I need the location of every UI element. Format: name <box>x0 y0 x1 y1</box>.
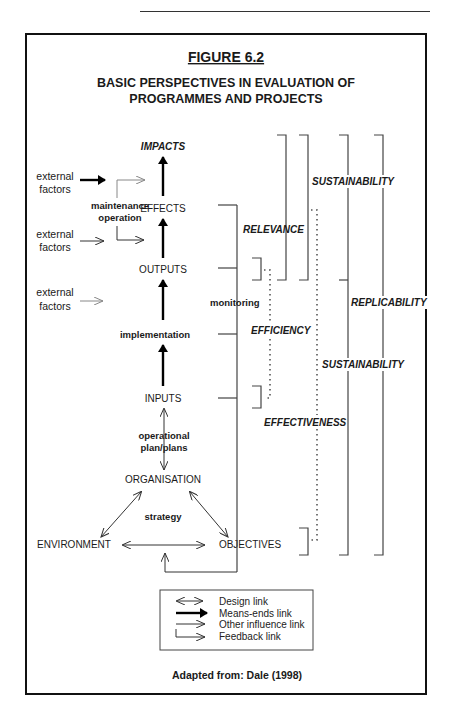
external-factors-1-line1: external <box>36 170 73 182</box>
node-impacts: IMPACTS <box>141 141 186 152</box>
bracket-outputs <box>252 258 261 280</box>
figure-label: FIGURE 6.2 <box>188 49 264 65</box>
node-objectives: OBJECTIVES <box>219 539 282 550</box>
maintenance-line1: maintenance <box>91 200 149 211</box>
feedback-link <box>165 553 237 572</box>
evaluation-perspectives-diagram: FIGURE 6.2 BASIC PERSPECTIVES IN EVALUAT… <box>0 0 454 724</box>
node-outputs: OUTPUTS <box>139 264 187 275</box>
node-organisation: ORGANISATION <box>125 474 201 485</box>
figure-title-line1: BASIC PERSPECTIVES IN EVALUATION OF <box>97 76 355 90</box>
maintenance-line2: operation <box>98 212 141 223</box>
external-factors-3-line2: factors <box>39 300 71 312</box>
legend-design-link: Design link <box>219 596 269 607</box>
design-link-organisation-objectives <box>190 492 228 537</box>
external-factors-2-line2: factors <box>39 241 71 253</box>
maintenance-arrow-to-impacts <box>117 180 145 198</box>
label-sustainability-mid: SUSTAINABILITY <box>322 359 405 370</box>
label-effectiveness: EFFECTIVENESS <box>264 417 347 428</box>
bracket-sustainability-mid <box>339 135 348 555</box>
legend-other-influence-link: Other influence link <box>219 619 306 630</box>
node-environment: ENVIRONMENT <box>37 539 111 550</box>
figure-source: Adapted from: Dale (1998) <box>172 669 302 681</box>
legend-means-ends-link: Means-ends link <box>219 608 293 619</box>
bracket-relevance <box>277 135 286 280</box>
effectiveness-dotted-link <box>311 210 317 540</box>
figure-title-line2: PROGRAMMES AND PROJECTS <box>129 92 322 106</box>
bracket-objectives <box>299 528 308 555</box>
maintenance-arrow-to-effects <box>117 226 144 240</box>
node-implementation: implementation <box>120 329 190 340</box>
bracket-replicability <box>374 135 383 555</box>
monitoring-label: monitoring <box>210 297 260 308</box>
legend-feedback-link: Feedback link <box>219 631 282 642</box>
external-factors-3-line1: external <box>36 286 73 298</box>
bracket-inputs <box>252 386 261 408</box>
design-link-organisation-environment <box>101 492 141 537</box>
node-inputs: INPUTS <box>145 393 182 404</box>
label-efficiency: EFFICIENCY <box>251 325 312 336</box>
node-strategy: strategy <box>145 511 183 522</box>
external-factors-1-line2: factors <box>39 183 71 195</box>
label-relevance: RELEVANCE <box>243 224 304 235</box>
external-factors-2-line1: external <box>36 228 73 240</box>
label-sustainability-top: SUSTAINABILITY <box>312 176 395 187</box>
label-replicability: REPLICABILITY <box>351 297 428 308</box>
bracket-sustainability-top <box>299 135 308 280</box>
